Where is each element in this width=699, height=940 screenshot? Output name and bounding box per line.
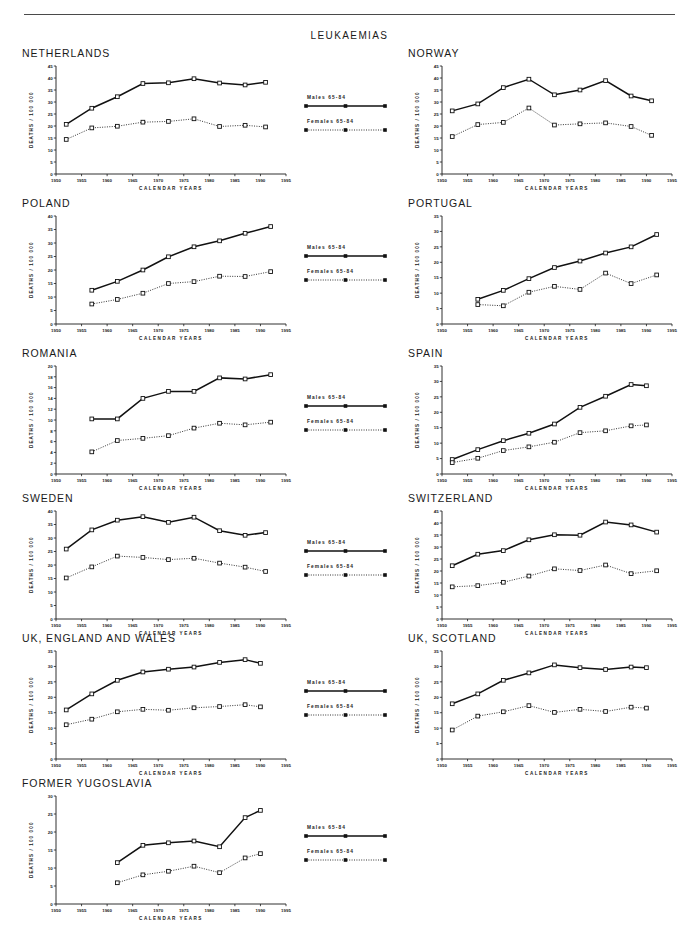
svg-text:15: 15 <box>48 576 53 581</box>
data-point-marker <box>655 569 659 573</box>
data-point-marker <box>553 663 557 667</box>
legend-swatch-females <box>303 571 395 579</box>
data-point-marker <box>578 406 582 410</box>
legend-label-males: Males 65-84 <box>307 680 346 685</box>
svg-text:1995: 1995 <box>281 623 291 628</box>
svg-text:5: 5 <box>50 603 53 608</box>
data-point-marker <box>90 450 94 454</box>
svg-text:1950: 1950 <box>51 478 61 483</box>
data-point-marker <box>115 861 119 865</box>
series-line-females <box>66 556 265 578</box>
svg-text:1975: 1975 <box>179 328 189 333</box>
legend-block-4: Males 65-84Females 65-84 <box>303 680 399 726</box>
svg-text:15: 15 <box>434 275 439 280</box>
data-point-marker <box>553 440 557 444</box>
legend-label-females: Females 65-84 <box>307 564 354 569</box>
panel-title: SPAIN <box>408 347 443 359</box>
data-point-marker <box>553 533 557 537</box>
svg-text:0: 0 <box>50 472 53 477</box>
svg-text:10: 10 <box>48 295 53 300</box>
svg-text:1995: 1995 <box>281 178 291 183</box>
data-point-marker <box>501 289 505 293</box>
data-point-marker <box>553 266 557 270</box>
data-point-marker <box>450 461 454 465</box>
legend-label-females: Females 65-84 <box>307 419 354 424</box>
svg-text:5: 5 <box>436 160 439 165</box>
svg-text:1970: 1970 <box>539 178 549 183</box>
data-point-marker <box>243 565 247 569</box>
svg-text:25: 25 <box>434 112 439 117</box>
legend-label-males: Males 65-84 <box>307 825 346 830</box>
series-line-males <box>66 517 265 549</box>
svg-text:1955: 1955 <box>77 478 87 483</box>
x-axis-label: CALENDAR YEARS <box>56 916 286 921</box>
svg-text:5: 5 <box>50 741 53 746</box>
legend-block-2: Males 65-84Females 65-84 <box>303 395 399 441</box>
svg-text:0: 0 <box>50 757 53 762</box>
data-point-marker <box>167 81 171 85</box>
svg-text:15: 15 <box>48 281 53 286</box>
data-point-marker <box>553 93 557 97</box>
data-point-marker <box>655 233 659 237</box>
data-point-marker <box>192 280 196 284</box>
data-point-marker <box>141 843 145 847</box>
svg-text:25: 25 <box>434 395 439 400</box>
legend-swatch-females <box>303 711 395 719</box>
svg-text:1995: 1995 <box>667 178 677 183</box>
svg-text:15: 15 <box>48 848 53 853</box>
data-point-marker <box>243 123 247 127</box>
svg-text:20: 20 <box>434 260 439 265</box>
legend-label-males: Males 65-84 <box>307 95 346 100</box>
svg-text:1980: 1980 <box>204 178 214 183</box>
svg-text:20: 20 <box>48 695 53 700</box>
svg-text:1990: 1990 <box>642 328 652 333</box>
data-point-marker <box>218 81 222 85</box>
svg-text:1995: 1995 <box>667 478 677 483</box>
plot-area: 0510152025301950195519601965197019751980… <box>22 790 292 924</box>
data-point-marker <box>141 873 145 877</box>
legend-swatch-females <box>303 426 395 434</box>
data-point-marker <box>476 102 480 106</box>
svg-text:1985: 1985 <box>616 763 626 768</box>
svg-text:10: 10 <box>48 148 53 153</box>
data-point-marker <box>115 518 119 522</box>
data-point-marker <box>141 437 145 441</box>
data-point-marker <box>192 117 196 121</box>
svg-text:20: 20 <box>434 569 439 574</box>
svg-text:1960: 1960 <box>102 478 112 483</box>
svg-text:35: 35 <box>48 227 53 232</box>
data-point-marker <box>115 710 119 714</box>
data-point-marker <box>90 106 94 110</box>
data-point-marker <box>629 665 633 669</box>
data-point-marker <box>604 121 608 125</box>
svg-text:1960: 1960 <box>102 763 112 768</box>
data-point-marker <box>243 856 247 860</box>
legend-label-males: Males 65-84 <box>307 540 346 545</box>
data-point-marker <box>218 661 222 665</box>
data-point-marker <box>141 82 145 86</box>
legend-label-females: Females 65-84 <box>307 849 354 854</box>
data-point-marker <box>243 275 247 279</box>
data-point-marker <box>259 661 263 665</box>
data-point-marker <box>527 445 531 449</box>
svg-text:1980: 1980 <box>204 623 214 628</box>
x-axis-label: CALENDAR YEARS <box>56 186 286 191</box>
data-point-marker <box>604 668 608 672</box>
data-point-marker <box>218 239 222 243</box>
svg-text:1970: 1970 <box>153 178 163 183</box>
svg-text:1975: 1975 <box>565 178 575 183</box>
data-point-marker <box>450 585 454 589</box>
svg-text:1975: 1975 <box>179 763 189 768</box>
data-point-marker <box>243 816 247 820</box>
data-point-marker <box>476 552 480 556</box>
data-point-marker <box>264 125 268 129</box>
data-point-marker <box>501 449 505 453</box>
data-point-marker <box>527 277 531 281</box>
svg-text:1955: 1955 <box>463 763 473 768</box>
svg-text:30: 30 <box>48 794 53 799</box>
data-point-marker <box>450 702 454 706</box>
data-point-marker <box>90 288 94 292</box>
data-point-marker <box>141 268 145 272</box>
svg-text:35: 35 <box>434 88 439 93</box>
svg-text:1965: 1965 <box>128 908 138 913</box>
